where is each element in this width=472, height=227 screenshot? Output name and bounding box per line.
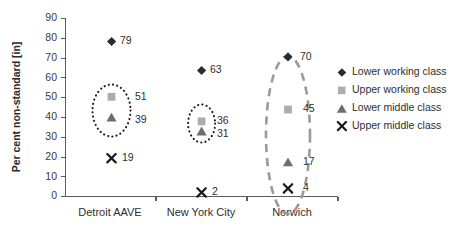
point-value-label: 63 — [210, 63, 222, 75]
point-value-label: 17 — [303, 155, 315, 167]
point-marker-triangle — [197, 127, 207, 136]
y-tick-label: 30 — [45, 130, 57, 142]
point-value-label: 70 — [300, 50, 312, 62]
x-tick-label-new-york: New York City — [167, 206, 236, 218]
y-tick-label: 10 — [45, 170, 57, 182]
point-marker-cross — [197, 188, 205, 196]
y-axis-ticks: 90 80 70 60 50 40 30 20 10 0 — [45, 11, 65, 201]
square-marker-icon — [338, 87, 346, 95]
y-tick-label: 60 — [45, 71, 57, 83]
point-value-label: 39 — [135, 113, 147, 125]
point-marker-diamond — [197, 66, 206, 75]
point-marker-cross — [284, 184, 292, 192]
point-value-label: 2 — [212, 185, 218, 197]
y-tick-label: 90 — [45, 11, 57, 23]
legend-item-label: Upper working class — [352, 83, 447, 95]
detroit-cluster-ellipse — [93, 85, 131, 137]
x-tick-label-detroit: Detroit AAVE — [78, 206, 141, 218]
point-marker-triangle — [106, 113, 116, 122]
y-tick-label: 50 — [45, 90, 57, 102]
point-value-label: 45 — [303, 102, 315, 114]
y-tick-label: 40 — [45, 110, 57, 122]
legend-item-label: Lower middle class — [352, 101, 441, 113]
point-value-label: 31 — [217, 127, 229, 139]
y-tick-label: 80 — [45, 31, 57, 43]
point-value-label: 36 — [217, 114, 229, 126]
x-axis-ticks — [156, 197, 338, 202]
legend-item-label: Lower working class — [352, 65, 447, 77]
triangle-marker-icon — [337, 104, 347, 113]
point-value-label: 19 — [122, 151, 134, 163]
diamond-marker-icon — [338, 68, 347, 77]
y-tick-label: 0 — [51, 189, 57, 201]
point-value-label: 79 — [120, 34, 132, 46]
y-tick-label: 20 — [45, 150, 57, 162]
point-marker-cross — [107, 154, 115, 162]
point-marker-diamond — [107, 37, 116, 46]
cross-marker-icon — [338, 122, 346, 130]
x-tick-label-norwich: Norwich — [272, 206, 312, 218]
y-tick-label: 70 — [45, 51, 57, 63]
point-value-label: 4 — [303, 181, 309, 193]
legend-item-label: Upper middle class — [352, 119, 441, 131]
point-marker-triangle — [283, 157, 293, 166]
point-marker-square — [284, 106, 292, 114]
scatter-chart-figure: Per cent non-standard [in] 90 80 70 60 5… — [0, 0, 472, 227]
data-group-new-york: 63 36 31 2 — [188, 63, 229, 197]
chart-plot-area: Per cent non-standard [in] 90 80 70 60 5… — [0, 0, 472, 227]
chart-legend: Lower working class Upper working class … — [337, 65, 447, 131]
point-marker-square — [108, 93, 116, 101]
y-axis-title: Per cent non-standard [in] — [10, 42, 22, 173]
point-marker-square — [198, 118, 206, 126]
point-value-label: 51 — [135, 90, 147, 102]
data-group-detroit: 79 51 39 19 — [93, 34, 147, 163]
point-marker-diamond — [283, 52, 292, 61]
